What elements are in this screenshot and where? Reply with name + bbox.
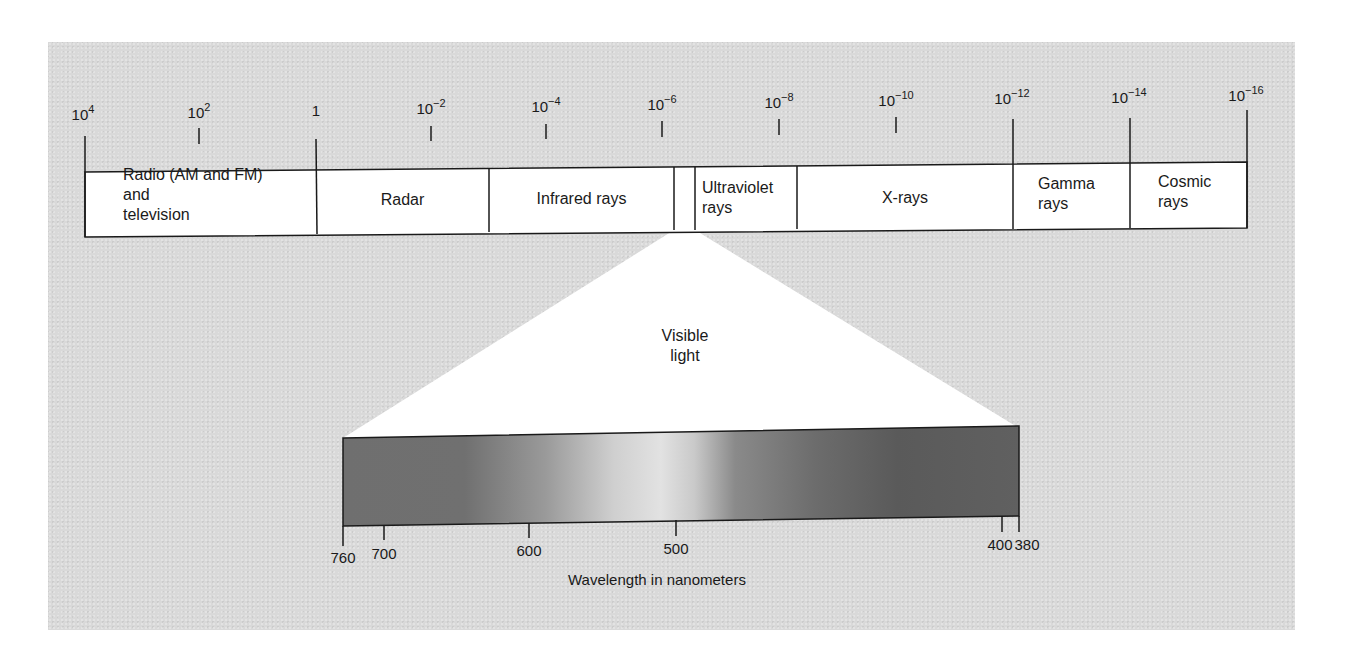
band-cosmic: Cosmic rays <box>1158 160 1246 223</box>
scale-label-1e-14: 10−14 <box>1111 89 1146 107</box>
band-gamma: Gamma rays <box>1038 162 1128 225</box>
scale-label-1e-6: 10−6 <box>647 96 676 114</box>
scale-label-1: 1 <box>312 102 320 120</box>
wavelength-label-500: 500 <box>663 540 688 557</box>
band-x-rays: X-rays <box>797 166 1013 229</box>
visible-spectrum-bar <box>343 426 1019 526</box>
band-infrared: Infrared rays <box>489 167 674 230</box>
wavelength-label-380: 380 <box>1014 536 1039 553</box>
wavelength-label-700: 700 <box>371 545 396 562</box>
band-visible <box>674 167 695 230</box>
wavelength-axis-title: Wavelength in nanometers <box>568 570 746 590</box>
band-radio-television: Radio (AM and FM) and television <box>123 160 313 230</box>
scale-label-1e-10: 10−10 <box>878 92 913 110</box>
scale-label-1e2: 102 <box>188 104 211 122</box>
band-radar: Radar <box>316 168 489 232</box>
scale-label-1e-12: 10−12 <box>994 90 1029 108</box>
wavelength-label-600: 600 <box>516 542 541 559</box>
scale-label-1e4: 104 <box>72 106 95 124</box>
scale-label-1e-16: 10−16 <box>1228 87 1263 105</box>
scale-label-1e-8: 10−8 <box>764 94 793 112</box>
wavelength-label-760: 760 <box>330 549 355 566</box>
scale-label-1e-2: 10−2 <box>416 100 445 118</box>
visible-light-label: Visible light <box>630 326 740 366</box>
wavelength-label-400: 400 <box>987 536 1012 553</box>
band-ultraviolet: Ultraviolet rays <box>702 166 797 229</box>
scale-label-1e-4: 10−4 <box>531 98 560 116</box>
